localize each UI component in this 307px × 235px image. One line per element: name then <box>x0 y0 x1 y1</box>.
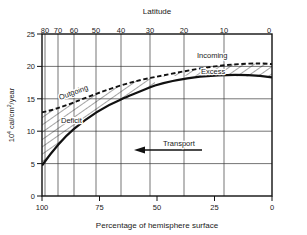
excess-label: Excess <box>201 67 225 76</box>
y-title-mid: cal/cm <box>7 107 16 131</box>
y-axis-title: 104 cal/cm2/year <box>6 87 16 142</box>
incoming-label: Incoming <box>197 51 227 60</box>
y-title-prefix: 10 <box>7 134 16 142</box>
y-tick-0: 0 <box>31 192 35 201</box>
y-tick-5: 5 <box>31 160 35 169</box>
x-tick-0: 0 <box>270 203 274 212</box>
y-tick-10: 10 <box>27 127 35 136</box>
y-title-suffix: /year <box>7 87 16 104</box>
x-tick-75: 75 <box>95 203 103 212</box>
y-tick-20: 20 <box>27 62 35 71</box>
transport-label: Transport <box>163 139 196 148</box>
deficit-label: Deficit <box>61 116 83 125</box>
radiation-balance-chart: Latitude 80 70 60 50 40 30 20 10 0 <box>0 0 307 235</box>
svg-text:104 cal/cm2/year: 104 cal/cm2/year <box>6 87 16 142</box>
x-tick-100: 100 <box>36 203 49 212</box>
y-tick-25: 25 <box>27 30 35 39</box>
top-axis-title: Latitude <box>143 7 172 16</box>
x-tick-25: 25 <box>210 203 218 212</box>
x-axis-title: Percentage of hemisphere surface <box>96 221 219 230</box>
x-tick-50: 50 <box>153 203 161 212</box>
y-tick-15: 15 <box>27 95 35 104</box>
